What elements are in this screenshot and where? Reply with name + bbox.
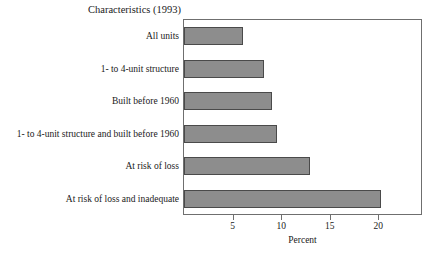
bar — [184, 27, 243, 45]
x-axis-tick-labels: 5101520 — [183, 220, 422, 234]
x-axis-title: Percent — [183, 234, 422, 247]
bar-row — [184, 118, 422, 151]
category-label: Built before 1960 — [112, 85, 179, 118]
x-tick-label: 5 — [230, 220, 235, 233]
bar-chart-figure: Characteristics (1993) All units1- to 4-… — [0, 0, 429, 255]
bar-row — [184, 20, 422, 53]
bar-row — [184, 53, 422, 86]
bar-row — [184, 150, 422, 183]
bar-row — [184, 183, 422, 216]
bar — [184, 157, 310, 175]
x-tick-label: 20 — [374, 220, 384, 233]
chart-title: Characteristics (1993) — [88, 3, 181, 16]
bar — [184, 125, 277, 143]
x-tick-label: 15 — [325, 220, 335, 233]
category-label: All units — [146, 20, 179, 53]
category-axis-labels: All units1- to 4-unit structureBuilt bef… — [0, 20, 179, 215]
category-label: At risk of loss — [125, 150, 179, 183]
bar — [184, 190, 381, 208]
bar — [184, 92, 272, 110]
category-label: 1- to 4-unit structure and built before … — [17, 118, 179, 151]
x-tick-label: 10 — [276, 220, 286, 233]
bar-row — [184, 85, 422, 118]
category-label: 1- to 4-unit structure — [101, 53, 179, 86]
bars-layer — [184, 20, 422, 215]
category-label: At risk of loss and inadequate — [66, 183, 179, 216]
bar — [184, 60, 264, 78]
